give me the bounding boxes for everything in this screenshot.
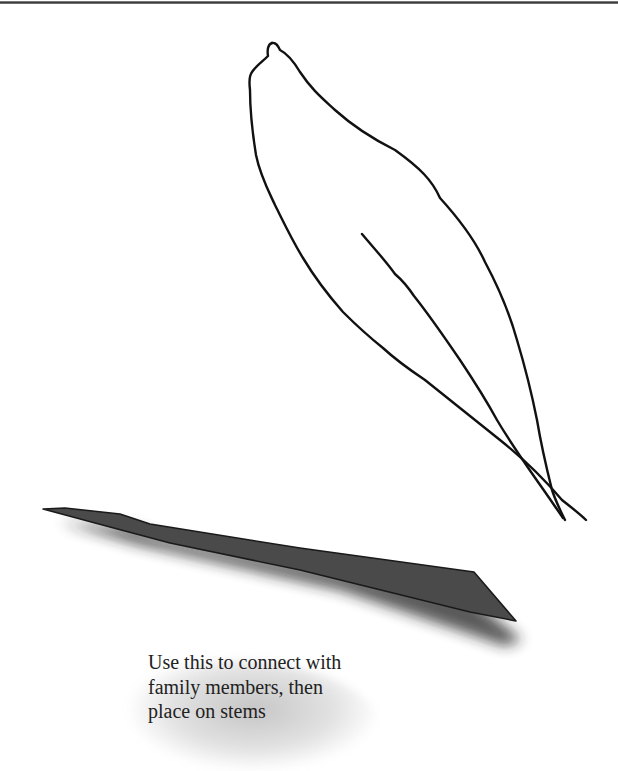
caption-line-2: family members, then (148, 675, 388, 700)
caption-line-1: Use this to connect with (148, 650, 388, 675)
caption-text: Use this to connect with family members,… (148, 650, 388, 724)
leaf-outline[interactable] (249, 43, 586, 520)
leaf-right-edge (272, 43, 565, 520)
stem-shape[interactable] (43, 508, 516, 621)
leaf-left-edge (249, 43, 586, 520)
caption-line-3: place on stems (148, 699, 388, 724)
leaf-midrib (362, 234, 563, 518)
